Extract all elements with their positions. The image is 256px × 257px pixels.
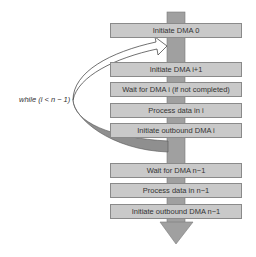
down-arrow-icon [160, 222, 193, 244]
step-process-data-n-1: Process data in n−1 [110, 183, 242, 198]
step-initiate-dma-0: Initiate DMA 0 [110, 23, 242, 38]
step-wait-dma-n-1: Wait for DMA n−1 [110, 163, 242, 178]
step-initiate-outbound-dma-i: Initiate outbound DMA i [110, 123, 242, 138]
step-wait-dma-i: Wait for DMA i (if not completed) [110, 82, 242, 97]
loop-condition-label: while (i < n − 1) [19, 95, 70, 104]
step-process-data-i: Process data in i [110, 103, 242, 118]
step-initiate-dma-i-plus-1: Initiate DMA i+1 [110, 62, 242, 77]
step-initiate-outbound-dma-n-1: Initiate outbound DMA n−1 [110, 204, 242, 219]
